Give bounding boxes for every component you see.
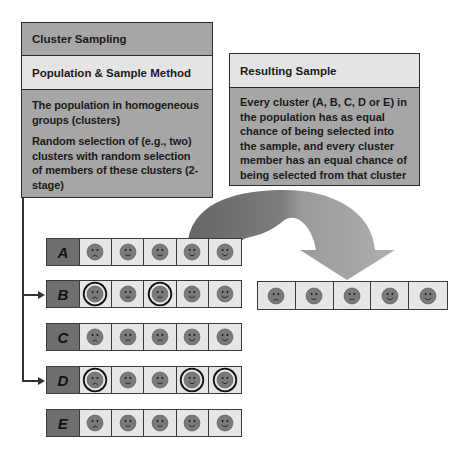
- cluster-member: [112, 324, 144, 350]
- cluster-member: [144, 410, 176, 436]
- happy-face-icon: [377, 283, 403, 309]
- neutral-face-icon: [115, 367, 141, 393]
- arrow-to-d-icon: [38, 377, 45, 385]
- cluster-member: [209, 324, 241, 350]
- happy-face-icon: [179, 239, 205, 265]
- cluster-member: [209, 367, 241, 393]
- happy-face-icon: [212, 239, 238, 265]
- sample-member: [371, 282, 409, 309]
- cluster-member: [144, 281, 176, 307]
- cluster-member: [209, 410, 241, 436]
- cluster-member: [177, 367, 209, 393]
- neutral-face-icon: [147, 410, 173, 436]
- cluster-member: [112, 367, 144, 393]
- cluster-member: [112, 410, 144, 436]
- happy-face-icon: [179, 281, 205, 307]
- cluster-member: [80, 410, 112, 436]
- connector-line: [22, 198, 24, 381]
- cluster-member: [177, 410, 209, 436]
- sad-face-icon: [263, 283, 289, 309]
- cluster-member: [80, 324, 112, 350]
- sad-face-icon: [82, 367, 108, 393]
- cluster-member: [112, 239, 144, 265]
- neutral-face-icon: [147, 281, 173, 307]
- method-heading: Population & Sample Method: [22, 55, 212, 89]
- cluster-label: D: [47, 367, 80, 393]
- happy-face-icon: [415, 283, 441, 309]
- cluster-label: E: [47, 410, 80, 436]
- sad-face-icon: [82, 281, 108, 307]
- cluster-label: B: [47, 281, 80, 307]
- happy-face-icon: [212, 367, 238, 393]
- neutral-face-icon: [115, 410, 141, 436]
- resulting-sample-panel: Resulting Sample Every cluster (A, B, C,…: [229, 53, 420, 186]
- neutral-face-icon: [147, 367, 173, 393]
- population-text: The population in homogeneous groups (cl…: [32, 98, 202, 127]
- method-description: The population in homogeneous groups (cl…: [22, 89, 212, 197]
- panel-title: Cluster Sampling: [22, 23, 212, 55]
- sample-member: [409, 282, 447, 309]
- selection-text: Random selection of (e.g., two) clusters…: [32, 134, 202, 192]
- sad-face-icon: [82, 239, 108, 265]
- cluster-row-e: E: [46, 409, 242, 437]
- cluster-member: [112, 281, 144, 307]
- cluster-label: A: [47, 239, 80, 265]
- sad-face-icon: [82, 410, 108, 436]
- connector-branch-d: [22, 380, 39, 382]
- neutral-face-icon: [115, 324, 141, 350]
- cluster-member: [177, 281, 209, 307]
- sad-face-icon: [82, 324, 108, 350]
- neutral-face-icon: [301, 283, 327, 309]
- cluster-member: [80, 367, 112, 393]
- happy-face-icon: [212, 324, 238, 350]
- neutral-face-icon: [339, 283, 365, 309]
- neutral-face-icon: [147, 324, 173, 350]
- cluster-member: [209, 281, 241, 307]
- cluster-row-b: B: [46, 280, 242, 308]
- cluster-member: [144, 239, 176, 265]
- cluster-label: C: [47, 324, 80, 350]
- cluster-member: [177, 324, 209, 350]
- cluster-row-a: A: [46, 238, 242, 266]
- happy-face-icon: [179, 367, 205, 393]
- neutral-face-icon: [115, 239, 141, 265]
- cluster-sampling-panel: Cluster Sampling Population & Sample Met…: [21, 22, 213, 198]
- neutral-face-icon: [115, 281, 141, 307]
- cluster-member: [177, 239, 209, 265]
- sample-member: [258, 282, 296, 309]
- arrow-to-b-icon: [38, 291, 45, 299]
- cluster-member: [80, 239, 112, 265]
- cluster-member: [80, 281, 112, 307]
- cluster-row-d: D: [46, 366, 242, 394]
- sample-member: [296, 282, 334, 309]
- cluster-row-c: C: [46, 323, 242, 351]
- resulting-sample-row: [257, 281, 448, 310]
- connector-branch-b: [22, 294, 39, 296]
- sample-member: [334, 282, 372, 309]
- neutral-face-icon: [147, 239, 173, 265]
- cluster-member: [144, 367, 176, 393]
- resulting-sample-description: Every cluster (A, B, C, D or E) in the p…: [230, 87, 419, 185]
- cluster-member: [144, 324, 176, 350]
- cluster-member: [209, 239, 241, 265]
- happy-face-icon: [212, 410, 238, 436]
- happy-face-icon: [179, 410, 205, 436]
- happy-face-icon: [179, 324, 205, 350]
- resulting-sample-heading: Resulting Sample: [230, 54, 419, 87]
- happy-face-icon: [212, 281, 238, 307]
